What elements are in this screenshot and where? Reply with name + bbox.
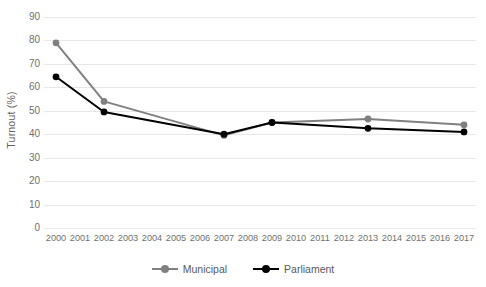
y-axis-tick-40: 40 <box>20 129 40 139</box>
legend-swatch-icon <box>253 264 279 274</box>
x-axis-tick-2015: 2015 <box>404 231 428 247</box>
data-point-parliament-2017 <box>461 128 468 135</box>
chart-legend: MunicipalParliament <box>0 258 486 280</box>
x-axis-tick-2013: 2013 <box>356 231 380 247</box>
x-axis-tick-2005: 2005 <box>164 231 188 247</box>
gridline-0 <box>44 228 476 229</box>
data-point-municipal-2000 <box>53 39 60 46</box>
legend-item-parliament[interactable]: Parliament <box>253 263 334 275</box>
x-axis-tick-2009: 2009 <box>260 231 284 247</box>
y-axis-tick-90: 90 <box>20 12 40 22</box>
y-axis-tick-30: 30 <box>20 153 40 163</box>
y-axis-title: Turnout (%) <box>0 0 22 240</box>
x-axis-tick-2004: 2004 <box>140 231 164 247</box>
legend-swatch-icon <box>152 264 178 274</box>
x-axis-tick-2011: 2011 <box>308 231 332 247</box>
y-axis-tick-80: 80 <box>20 35 40 45</box>
y-axis-tick-20: 20 <box>20 176 40 186</box>
y-axis-title-label: Turnout (%) <box>5 91 17 148</box>
x-axis-tick-2010: 2010 <box>284 231 308 247</box>
x-axis-tick-2001: 2001 <box>68 231 92 247</box>
series-layer <box>44 17 476 228</box>
x-axis-tick-2012: 2012 <box>332 231 356 247</box>
y-axis-tick-50: 50 <box>20 106 40 116</box>
series-line-municipal <box>56 43 464 136</box>
data-point-parliament-2002 <box>101 109 108 116</box>
y-axis-tick-70: 70 <box>20 59 40 69</box>
data-point-parliament-2007 <box>221 131 228 138</box>
x-axis-tick-2008: 2008 <box>236 231 260 247</box>
x-axis-tick-2017: 2017 <box>452 231 476 247</box>
legend-label: Parliament <box>284 263 334 275</box>
y-axis-tick-0: 0 <box>20 223 40 233</box>
y-axis-tick-10: 10 <box>20 200 40 210</box>
y-axis-tick-labels: 9080706050403020100 <box>20 0 40 287</box>
x-axis-tick-2014: 2014 <box>380 231 404 247</box>
x-axis-tick-2000: 2000 <box>44 231 68 247</box>
data-point-parliament-2013 <box>365 125 372 132</box>
x-axis-tick-2007: 2007 <box>212 231 236 247</box>
data-point-municipal-2002 <box>101 98 108 105</box>
data-point-municipal-2013 <box>365 116 372 123</box>
data-point-parliament-2009 <box>269 119 276 126</box>
plot-area <box>44 17 476 228</box>
legend-label: Municipal <box>183 263 227 275</box>
data-point-parliament-2000 <box>53 73 60 80</box>
turnout-line-chart: Turnout (%) 9080706050403020100 20002001… <box>0 0 486 287</box>
x-axis-tick-2006: 2006 <box>188 231 212 247</box>
legend-item-municipal[interactable]: Municipal <box>152 263 227 275</box>
x-axis-tick-2003: 2003 <box>116 231 140 247</box>
x-axis-tick-2016: 2016 <box>428 231 452 247</box>
y-axis-tick-60: 60 <box>20 82 40 92</box>
x-axis-tick-2002: 2002 <box>92 231 116 247</box>
data-point-municipal-2017 <box>461 121 468 128</box>
x-axis-tick-labels: 2000200120022003200420052006200720082009… <box>44 231 476 247</box>
